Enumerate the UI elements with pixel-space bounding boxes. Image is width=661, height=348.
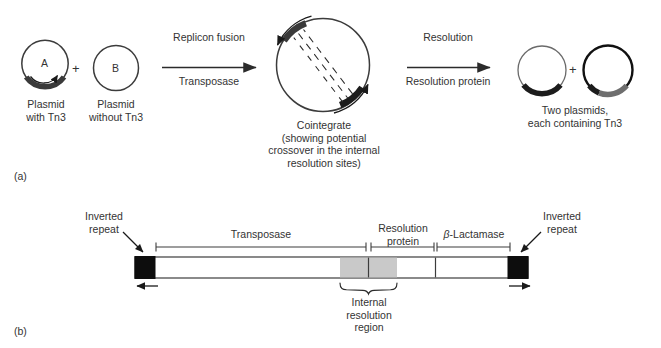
plasmid-b-caption: Plasmid without Tn3 bbox=[68, 98, 164, 123]
segment-extent-rules bbox=[156, 243, 510, 252]
product-plasmid-2 bbox=[584, 46, 633, 95]
inverted-repeat-left-block bbox=[135, 257, 155, 279]
reaction-1-label-below: Transposase bbox=[148, 75, 270, 88]
plasmid-b-letter: B bbox=[112, 62, 119, 74]
plus-sign-2: + bbox=[569, 62, 577, 77]
plus-sign-1: + bbox=[72, 61, 80, 76]
panel-b-id: (b) bbox=[14, 325, 27, 337]
beta-lactamase-label: β-Lactamase bbox=[428, 228, 520, 241]
plasmid-a-letter: A bbox=[41, 57, 48, 69]
inverted-repeat-left-label: Inverted repeat bbox=[73, 210, 135, 235]
cointegrate-caption: Cointegrate (showing potential crossover… bbox=[240, 119, 408, 169]
product-plasmid-2-tn3-arc-gray bbox=[599, 86, 627, 95]
tn3-bar-outline bbox=[135, 257, 528, 278]
internal-resolution-region-label: Internal resolution region bbox=[328, 296, 410, 334]
inverted-repeat-right-block bbox=[508, 257, 528, 279]
inverted-repeat-right-label: Inverted repeat bbox=[531, 210, 593, 235]
tn3-linear-map bbox=[123, 232, 541, 294]
product-plasmid-2-tn3-arc-dark bbox=[589, 86, 599, 93]
reaction-2-label-above: Resolution bbox=[400, 31, 496, 44]
product-plasmid-1 bbox=[518, 46, 566, 94]
product-plasmid-1-tn3-arc bbox=[524, 85, 561, 94]
reaction-2-label-below: Resolution protein bbox=[390, 75, 506, 88]
cointegrate-plasmid bbox=[277, 16, 370, 113]
products-caption: Two plasmids, each containing Tn3 bbox=[500, 104, 650, 129]
figure-canvas: A B + + Plasmid with Tn3 Plasmid without… bbox=[0, 0, 661, 348]
beta-lactamase-word: -Lactamase bbox=[450, 228, 505, 240]
inverted-repeat-right-leader bbox=[521, 232, 541, 252]
cointegrate-res-site-lower bbox=[340, 88, 362, 106]
panel-a-id: (a) bbox=[14, 170, 27, 182]
transposase-label: Transposase bbox=[201, 228, 321, 241]
internal-resolution-brace bbox=[340, 283, 397, 294]
reaction-1-label-above: Replicon fusion bbox=[148, 31, 270, 44]
inverted-repeat-left-leader bbox=[123, 232, 143, 252]
cointegrate-crossover-lines bbox=[294, 30, 353, 103]
